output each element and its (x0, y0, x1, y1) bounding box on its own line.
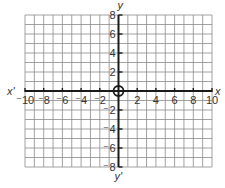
y-tick-label: 2 (109, 66, 115, 78)
x-tick-label: 4 (153, 94, 159, 106)
y-tick-label: ⁻6 (103, 142, 115, 154)
y-axis-label: y (117, 0, 125, 11)
y-tick-label: 6 (109, 28, 115, 40)
x-tick-label: ⁻10 (16, 94, 34, 106)
coordinate-plane: ⁻10⁻8⁻6⁻4⁻22468108642⁻2⁻4⁻6⁻8 x x' y y' (0, 0, 225, 188)
x-tick-label: 2 (134, 94, 140, 106)
x-tick-label: ⁻4 (75, 94, 87, 106)
y-tick-label: 8 (109, 9, 115, 21)
x-axis-label: x (214, 85, 221, 97)
x-tick-label: ⁻6 (56, 94, 68, 106)
y-tick-label: 4 (109, 47, 115, 59)
y-prime-axis-label: y' (114, 170, 124, 182)
x-tick-label: ⁻8 (38, 94, 50, 106)
x-tick-label: 6 (172, 94, 178, 106)
x-prime-axis-label: x' (6, 85, 16, 97)
y-tick-label: ⁻2 (103, 104, 115, 116)
y-tick-label: ⁻4 (103, 123, 115, 135)
x-tick-label: 8 (190, 94, 196, 106)
